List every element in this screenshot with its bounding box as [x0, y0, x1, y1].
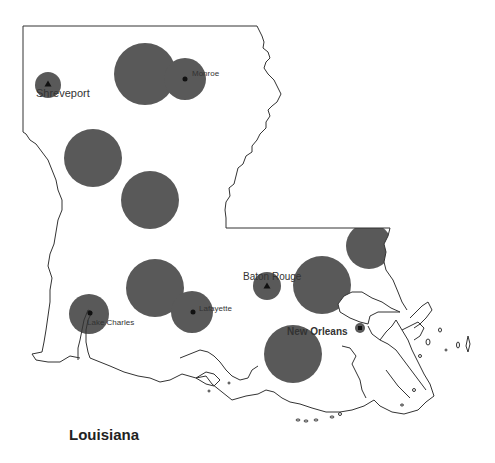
city-new-orleans: New Orleans: [287, 326, 362, 337]
state-outline: [23, 26, 470, 422]
square-marker-icon: [358, 326, 362, 330]
city-label: Lake Charles: [87, 318, 134, 327]
louisiana-map: ShreveportMonroeBaton RougeLafayetteLake…: [0, 0, 495, 463]
circle-central: [121, 171, 179, 229]
circle-west-central: [64, 129, 122, 187]
city-label: Lafayette: [199, 304, 232, 313]
dot-marker-icon: [183, 77, 188, 82]
city-label: Shreveport: [36, 87, 90, 99]
city-label: New Orleans: [287, 326, 348, 337]
dot-marker-icon: [191, 310, 196, 315]
circle-florida-parishes: [346, 223, 392, 269]
map-title: Louisiana: [69, 426, 139, 443]
circle-baton-rouge-east: [293, 256, 351, 314]
city-label: Baton Rouge: [243, 271, 302, 282]
city-label: Monroe: [192, 69, 220, 78]
dot-marker-icon: [88, 311, 93, 316]
